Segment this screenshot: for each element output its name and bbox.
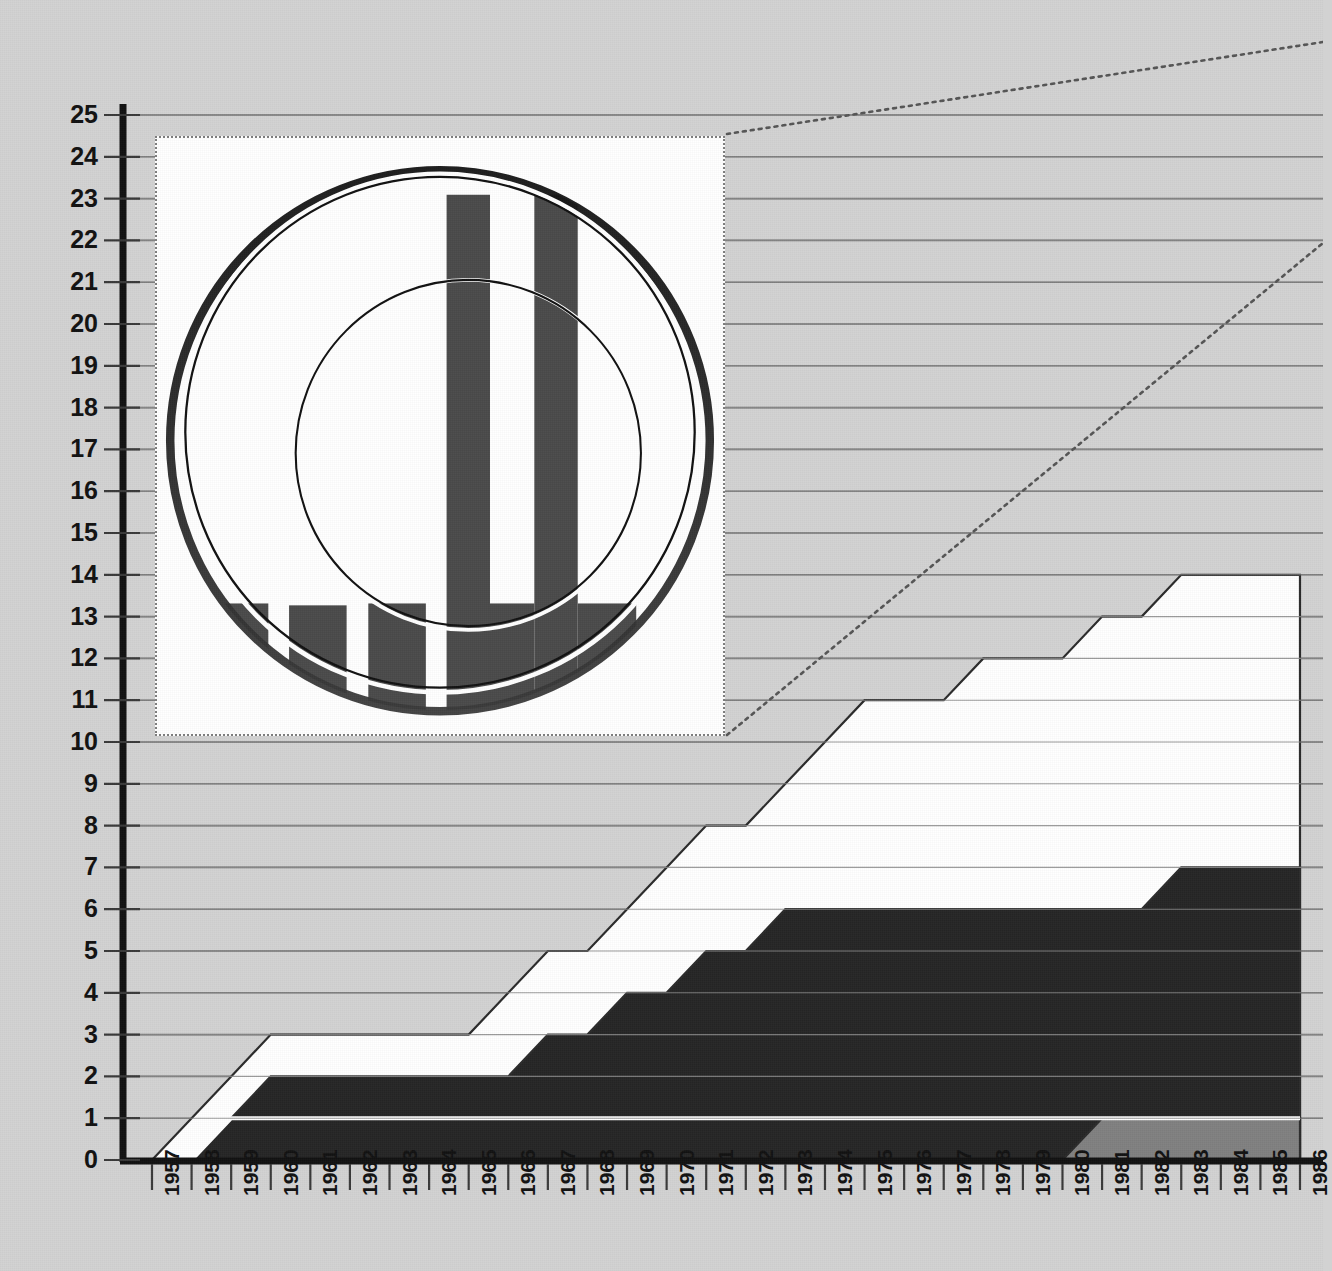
x-tick-label-1976: 1976 — [912, 1149, 936, 1196]
y-tick-label-1: 1 — [38, 1105, 98, 1130]
y-tick-label-11: 11 — [38, 687, 98, 712]
y-tick-label-3: 3 — [38, 1022, 98, 1047]
x-tick-label-1966: 1966 — [516, 1149, 540, 1196]
y-tick-label-5: 5 — [38, 938, 98, 963]
x-tick-label-1963: 1963 — [398, 1149, 422, 1196]
x-tick-label-1981: 1981 — [1110, 1149, 1134, 1196]
y-tick-label-14: 14 — [38, 562, 98, 587]
x-tick-label-1984: 1984 — [1229, 1149, 1253, 1196]
y-tick-label-0: 0 — [38, 1147, 98, 1172]
y-tick-label-10: 10 — [38, 729, 98, 754]
y-tick-label-22: 22 — [38, 227, 98, 252]
y-tick-label-20: 20 — [38, 311, 98, 336]
y-tick-label-18: 18 — [38, 395, 98, 420]
magnifier-inset-content — [157, 138, 723, 734]
x-tick-label-1979: 1979 — [1031, 1149, 1055, 1196]
x-tick-label-1967: 1967 — [556, 1149, 580, 1196]
y-tick-label-16: 16 — [38, 478, 98, 503]
x-tick-label-1982: 1982 — [1150, 1149, 1174, 1196]
y-tick-label-24: 24 — [38, 144, 98, 169]
x-tick-label-1983: 1983 — [1189, 1149, 1213, 1196]
x-tick-label-1968: 1968 — [595, 1149, 619, 1196]
x-tick-label-1958: 1958 — [200, 1149, 224, 1196]
leader-line-top — [727, 42, 1323, 134]
y-tick-label-12: 12 — [38, 645, 98, 670]
x-tick-label-1961: 1961 — [318, 1149, 342, 1196]
y-tick-label-9: 9 — [38, 771, 98, 796]
y-tick-label-23: 23 — [38, 186, 98, 211]
x-tick-label-1972: 1972 — [754, 1149, 778, 1196]
y-tick-label-4: 4 — [38, 980, 98, 1005]
x-tick-label-1978: 1978 — [991, 1149, 1015, 1196]
x-tick-label-1980: 1980 — [1070, 1149, 1094, 1196]
inset-bar-4 — [447, 195, 490, 734]
y-tick-label-7: 7 — [38, 854, 98, 879]
x-tick-label-1975: 1975 — [873, 1149, 897, 1196]
x-tick-label-1974: 1974 — [833, 1149, 857, 1196]
x-tick-label-1969: 1969 — [635, 1149, 659, 1196]
x-tick-label-1957: 1957 — [160, 1149, 184, 1196]
x-tick-label-1965: 1965 — [477, 1149, 501, 1196]
y-tick-label-15: 15 — [38, 520, 98, 545]
y-tick-label-21: 21 — [38, 269, 98, 294]
x-tick-label-1959: 1959 — [239, 1149, 263, 1196]
y-tick-label-25: 25 — [38, 102, 98, 127]
x-tick-label-1970: 1970 — [675, 1149, 699, 1196]
x-tick-label-1960: 1960 — [279, 1149, 303, 1196]
inset-bar-6 — [534, 195, 577, 734]
x-tick-label-1962: 1962 — [358, 1149, 382, 1196]
inset-background — [157, 138, 723, 734]
x-tick-label-1985: 1985 — [1268, 1149, 1292, 1196]
x-tick-label-1977: 1977 — [952, 1149, 976, 1196]
y-tick-label-19: 19 — [38, 353, 98, 378]
x-tick-label-1964: 1964 — [437, 1149, 461, 1196]
x-tick-label-1971: 1971 — [714, 1149, 738, 1196]
y-tick-label-2: 2 — [38, 1063, 98, 1088]
magnifier-inset[interactable] — [155, 136, 725, 736]
x-tick-label-1986: 1986 — [1308, 1149, 1332, 1196]
y-tick-label-6: 6 — [38, 896, 98, 921]
y-tick-label-17: 17 — [38, 436, 98, 461]
x-tick-label-1973: 1973 — [793, 1149, 817, 1196]
y-tick-label-13: 13 — [38, 604, 98, 629]
y-tick-label-8: 8 — [38, 813, 98, 838]
